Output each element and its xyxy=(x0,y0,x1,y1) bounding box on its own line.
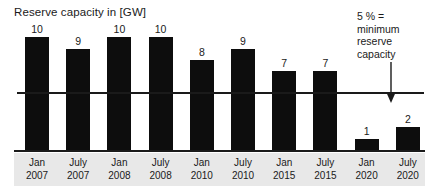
tick-year: 2020 xyxy=(347,169,387,182)
chart-title: Reserve capacity in [GW] xyxy=(14,6,146,18)
bar-value-label: 2 xyxy=(388,113,428,125)
x-axis-tick-label: July2010 xyxy=(223,156,263,182)
tick-year: 2008 xyxy=(141,169,181,182)
annotation-line-1: 5 % = xyxy=(357,10,433,23)
bar xyxy=(149,37,173,150)
bar xyxy=(107,37,131,150)
tick-year: 2020 xyxy=(388,169,428,182)
reserve-capacity-bar-chart: Reserve capacity in [GW] 1091010897712 J… xyxy=(0,0,436,190)
down-arrow-icon xyxy=(382,62,400,104)
bar-value-label: 7 xyxy=(264,57,304,69)
tick-month: Jan xyxy=(17,156,57,169)
tick-month: July xyxy=(223,156,263,169)
bar xyxy=(25,37,49,150)
tick-year: 2007 xyxy=(58,169,98,182)
bar xyxy=(313,71,337,150)
bar xyxy=(231,49,255,150)
x-axis-tick-label: July2008 xyxy=(141,156,181,182)
bar-value-label: 10 xyxy=(141,23,181,35)
tick-year: 2015 xyxy=(305,169,345,182)
tick-year: 2007 xyxy=(17,169,57,182)
x-axis-tick-label: July2020 xyxy=(388,156,428,182)
bar xyxy=(190,60,214,150)
reference-line xyxy=(17,92,424,94)
tick-month: July xyxy=(141,156,181,169)
annotation-line-4: capacity xyxy=(357,48,433,61)
x-axis-tick-label: Jan2020 xyxy=(347,156,387,182)
annotation-line-3: reserve xyxy=(357,35,433,48)
x-axis-tick-label: Jan2008 xyxy=(99,156,139,182)
annotation-line-2: minimum xyxy=(357,23,433,36)
tick-month: Jan xyxy=(182,156,222,169)
bar-value-label: 7 xyxy=(305,57,345,69)
bar-value-label: 9 xyxy=(58,35,98,47)
x-axis-tick-label: Jan2010 xyxy=(182,156,222,182)
x-axis-tick-label: July2015 xyxy=(305,156,345,182)
x-axis-baseline xyxy=(14,150,425,152)
bar-value-label: 10 xyxy=(99,23,139,35)
tick-month: Jan xyxy=(347,156,387,169)
bar xyxy=(66,49,90,150)
tick-year: 2008 xyxy=(99,169,139,182)
tick-month: Jan xyxy=(99,156,139,169)
tick-month: Jan xyxy=(264,156,304,169)
reference-line-annotation: 5 % = minimum reserve capacity xyxy=(357,10,433,60)
bar-value-label: 1 xyxy=(347,125,387,137)
bar xyxy=(272,71,296,150)
bar-value-label: 8 xyxy=(182,46,222,58)
tick-year: 2010 xyxy=(223,169,263,182)
tick-month: July xyxy=(58,156,98,169)
x-axis-tick-label: Jan2015 xyxy=(264,156,304,182)
x-axis-tick-band: Jan2007July2007Jan2008July2008Jan2010Jul… xyxy=(14,153,425,186)
x-axis-tick-label: Jan2007 xyxy=(17,156,57,182)
tick-month: July xyxy=(388,156,428,169)
tick-month: July xyxy=(305,156,345,169)
bar-value-label: 10 xyxy=(17,23,57,35)
tick-year: 2015 xyxy=(264,169,304,182)
bar-value-label: 9 xyxy=(223,35,263,47)
bar xyxy=(396,127,420,150)
x-axis-tick-label: July2007 xyxy=(58,156,98,182)
tick-year: 2010 xyxy=(182,169,222,182)
bar xyxy=(355,139,379,150)
